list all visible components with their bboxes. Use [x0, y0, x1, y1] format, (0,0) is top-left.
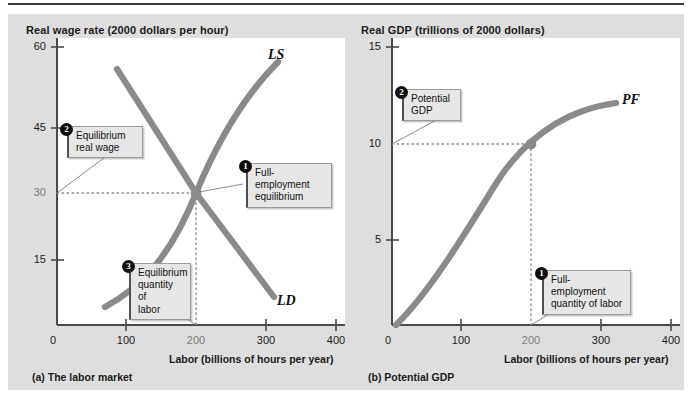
callout-badge-b-2: 2 [395, 86, 408, 99]
callout-a-2-equilibrium-real-wage[interactable]: Equilibrium real wage [67, 126, 143, 158]
callout-a-1-full-employment-equilibrium[interactable]: Full-employment equilibrium [246, 163, 332, 208]
plot-background-potential-gdp [392, 38, 680, 325]
y-axis-title-potential-gdp: Real GDP (trillions of 2000 dollars) [361, 24, 545, 36]
callout-badge-a-1-number: 1 [243, 161, 248, 171]
y-tick-label-a-45: 45 [22, 121, 46, 133]
x-tick-label-b-100: 100 [445, 334, 477, 346]
y-tick-label-a-15: 15 [22, 253, 46, 265]
x-tick-label-b-400: 400 [655, 334, 687, 346]
figure-root: Real wage rate (2000 dollars per hour) 6… [0, 0, 692, 412]
x-axis-title-labor-market: Labor (billions of hours per year) [169, 353, 334, 365]
callout-badge-b-2-number: 2 [399, 87, 404, 97]
callout-badge-a-3: 3 [122, 260, 135, 273]
callout-badge-a-2-number: 2 [64, 124, 69, 134]
callout-badge-a-1: 1 [239, 160, 252, 173]
callout-badge-a-3-number: 3 [126, 261, 131, 271]
x-tick-label-a-400: 400 [320, 334, 352, 346]
page-top-rule [8, 3, 684, 5]
x-tick-label-a-300: 300 [250, 334, 282, 346]
y-tick-label-b-15: 15 [357, 40, 381, 52]
callout-b-2-text: Potential GDP [411, 93, 450, 116]
x-tick-label-a-200: 200 [180, 334, 212, 346]
callout-b-2-potential-gdp[interactable]: Potential GDP [402, 89, 461, 121]
x-tick-label-a-100: 100 [110, 334, 142, 346]
callout-badge-b-1-number: 1 [539, 268, 544, 278]
y-tick-label-a-60: 60 [22, 40, 46, 52]
x-axis-title-potential-gdp: Labor (billions of hours per year) [504, 353, 669, 365]
x-tick-label-b-200: 200 [515, 334, 547, 346]
y-axis-title-labor-market: Real wage rate (2000 dollars per hour) [26, 24, 228, 36]
callout-b-1-full-employment-quantity-of-labor[interactable]: Full-employment quantity of labor [542, 270, 631, 315]
callout-a-3-text: Equilibrium quantity of labor [138, 267, 187, 315]
callout-a-3-equilibrium-quantity-of-labor[interactable]: Equilibrium quantity of labor [129, 263, 191, 320]
callout-badge-a-2: 2 [60, 123, 73, 136]
callout-a-2-text: Equilibrium real wage [76, 130, 125, 153]
y-tick-label-b-5: 5 [357, 233, 381, 245]
callout-b-1-text: Full-employment quantity of labor [551, 274, 622, 309]
curve-label-LS: LS [268, 47, 284, 63]
panel-caption-labor-market: (a) The labor market [32, 371, 132, 383]
y-tick-label-a-30: 30 [22, 186, 46, 198]
curve-label-PF: PF [622, 92, 640, 108]
x-tick-label-a-0: 0 [40, 334, 66, 346]
x-tick-label-b-0: 0 [375, 334, 401, 346]
callout-a-1-text: Full-employment equilibrium [255, 167, 309, 202]
x-tick-label-b-300: 300 [585, 334, 617, 346]
curve-label-LD: LD [277, 293, 296, 309]
y-tick-label-b-10: 10 [357, 137, 381, 149]
panel-caption-potential-gdp: (b) Potential GDP [368, 371, 454, 383]
callout-badge-b-1: 1 [535, 267, 548, 280]
